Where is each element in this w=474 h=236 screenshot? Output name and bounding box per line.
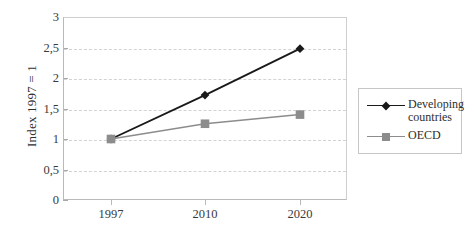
legend-item-developing-countries: Developing countries <box>365 98 464 124</box>
x-tickmark-2010 <box>205 200 206 205</box>
gridline-3 <box>64 17 346 18</box>
gridline-2-5 <box>64 49 346 50</box>
gridline-1-5 <box>64 110 346 111</box>
y-tick-label-0-5: 0,5 <box>19 162 59 177</box>
x-tickmark-2020 <box>300 200 301 205</box>
legend: Developing countries OECD <box>358 88 462 154</box>
y-tick-label-2-5: 2,5 <box>19 40 59 55</box>
legend-swatch-developing-countries <box>365 99 407 113</box>
legend-label-developing-countries: Developing countries <box>407 98 464 124</box>
gridline-0-5 <box>64 171 346 172</box>
y-tick-label-1: 1 <box>19 132 59 147</box>
y-tick-label-0: 0 <box>19 193 59 208</box>
x-tick-label-1997: 1997 <box>76 207 146 222</box>
legend-swatch-oecd <box>365 130 407 144</box>
legend-item-oecd: OECD <box>365 129 441 144</box>
y-tickmark-0 <box>63 200 68 201</box>
gridline-2 <box>64 79 346 80</box>
y-tick-label-1-5: 1,5 <box>19 101 59 116</box>
y-axis-ticks: 3 2,5 2 1,5 1 0,5 0 <box>17 17 59 200</box>
legend-label-oecd: OECD <box>407 129 441 142</box>
line-chart: Index 1997 = 1 3 2,5 2 1,5 1 0,5 0 1997 … <box>0 0 474 236</box>
gridline-1 <box>64 140 346 141</box>
x-tickmark-1997 <box>111 200 112 205</box>
x-tick-label-2020: 2020 <box>265 207 335 222</box>
y-tick-label-2: 2 <box>19 71 59 86</box>
x-tick-label-2010: 2010 <box>170 207 240 222</box>
plot-area <box>63 17 347 200</box>
y-tick-label-3: 3 <box>19 10 59 25</box>
square-marker-icon <box>379 130 393 144</box>
diamond-marker-icon <box>379 99 393 113</box>
